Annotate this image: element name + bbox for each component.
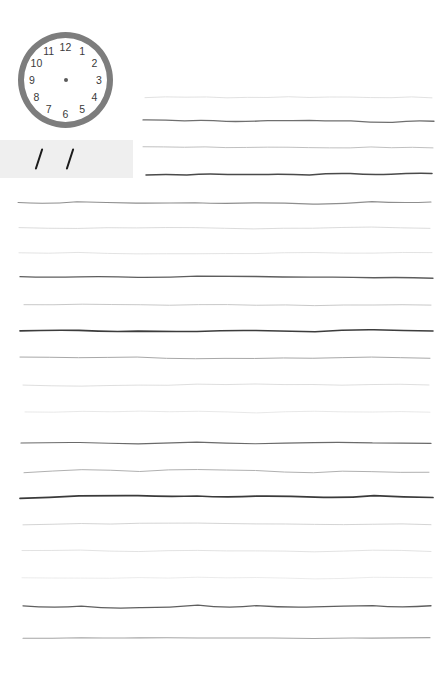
ruled-line [19, 246, 432, 260]
ruled-line [143, 140, 433, 154]
clock-center-dot [64, 78, 68, 82]
ruled-line [22, 544, 431, 558]
ruled-line [21, 436, 431, 450]
ruled-line [18, 196, 431, 210]
ruled-line [20, 490, 433, 504]
clock-number-10: 10 [31, 58, 43, 69]
clock-number-11: 11 [43, 46, 54, 57]
clock-number-1: 1 [79, 46, 85, 57]
ruled-line [20, 351, 430, 365]
clock-number-8: 8 [34, 92, 40, 103]
ruled-line [23, 631, 430, 645]
clock-number-3: 3 [96, 75, 102, 86]
clock-number-12: 12 [60, 41, 72, 52]
ruled-line [20, 270, 433, 284]
worksheet-page: 121234567891011 [0, 0, 439, 677]
gray-scan-band [0, 140, 133, 178]
ruled-line [143, 114, 434, 128]
ruled-line [22, 571, 432, 585]
slash-mark-2 [66, 148, 75, 170]
clock-number-4: 4 [92, 92, 98, 103]
slash-mark-1 [35, 148, 44, 170]
clock-number-6: 6 [63, 108, 69, 119]
ruled-line [24, 298, 431, 312]
clock-number-5: 5 [79, 104, 85, 115]
clock-number-9: 9 [29, 75, 35, 86]
ruled-line [19, 221, 430, 235]
ruled-line [23, 517, 431, 531]
ruled-line [23, 378, 429, 392]
ruled-line [25, 405, 430, 419]
ruled-line [20, 324, 433, 338]
clock-number-2: 2 [92, 58, 98, 69]
ruled-line [146, 167, 432, 181]
ruled-line [23, 600, 431, 614]
ruled-line [145, 90, 432, 104]
ruled-line [24, 464, 429, 478]
clock-number-7: 7 [46, 104, 52, 115]
clock-widget[interactable]: 121234567891011 [18, 32, 113, 128]
